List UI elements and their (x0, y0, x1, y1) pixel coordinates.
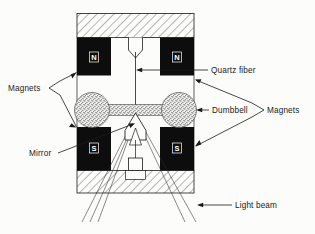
magnet-top-left: N (77, 38, 111, 76)
magnet-bottom-left: S (77, 127, 111, 171)
label-magnets-right: Magnets (267, 106, 299, 115)
label-light-beam: Light beam (235, 201, 277, 210)
apparatus-diagram: N N S S (0, 0, 315, 234)
mirror (125, 113, 146, 171)
magnet-bottom-right: S (160, 127, 194, 171)
pole-label-bottom-left: S (91, 144, 96, 153)
label-mirror: Mirror (29, 149, 51, 158)
label-quartz-fiber: Quartz fiber (211, 66, 256, 75)
figure-root: N N S S (0, 0, 315, 234)
pole-label-top-left: N (91, 53, 97, 62)
leader-dumbbell (196, 108, 209, 113)
leader-light-beam (197, 203, 232, 208)
top-hatched-frame (77, 14, 194, 38)
bottom-hatched-frame (77, 171, 194, 194)
label-dumbbell: Dumbbell (212, 106, 248, 115)
leader-magnets-left (49, 73, 77, 128)
pole-label-bottom-right: S (174, 144, 179, 153)
label-magnets-left: Magnets (8, 84, 40, 93)
pole-label-top-right: N (174, 53, 180, 62)
